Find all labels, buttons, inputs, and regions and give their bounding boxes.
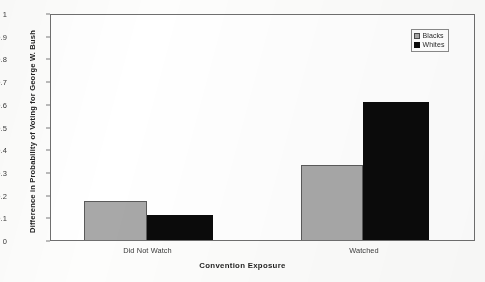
legend-item: Whites <box>414 40 445 49</box>
bar-did-not-watch-whites <box>147 215 213 240</box>
y-axis-tick-label: 0.5 <box>0 123 7 132</box>
legend-label: Whites <box>423 40 445 49</box>
bar-watched-blacks <box>301 165 363 240</box>
x-axis-title: Convention Exposure <box>0 261 485 270</box>
y-axis-tick-label: 0.8 <box>0 55 7 64</box>
y-axis-tick-label: 0.1 <box>0 214 7 223</box>
legend-swatch-blacks <box>414 33 420 39</box>
y-axis-tick-label: 0.2 <box>0 191 7 200</box>
x-axis-tick-label: Did Not Watch <box>123 246 172 255</box>
y-axis-tick-label: 0 <box>0 237 7 246</box>
y-axis-tick-label: 0.7 <box>0 78 7 87</box>
chart-figure: 00.10.20.30.40.50.60.70.80.91 Difference… <box>0 0 485 282</box>
x-axis-tick-label: Watched <box>349 246 379 255</box>
y-axis-tick-label: 0.3 <box>0 168 7 177</box>
legend-label: Blacks <box>423 31 444 40</box>
legend: BlacksWhites <box>411 29 449 52</box>
y-axis-tick-label: 1 <box>0 10 7 19</box>
legend-swatch-whites <box>414 42 420 48</box>
bar-watched-whites <box>363 102 429 240</box>
y-axis: 00.10.20.30.40.50.60.70.80.91 <box>0 0 46 282</box>
y-axis-title: Difference in Probability of Voting for … <box>28 17 37 247</box>
y-axis-tick-label: 0.9 <box>0 32 7 41</box>
bar-did-not-watch-blacks <box>84 201 147 240</box>
legend-item: Blacks <box>414 31 445 40</box>
y-axis-tick-label: 0.4 <box>0 146 7 155</box>
y-axis-tick-label: 0.6 <box>0 100 7 109</box>
